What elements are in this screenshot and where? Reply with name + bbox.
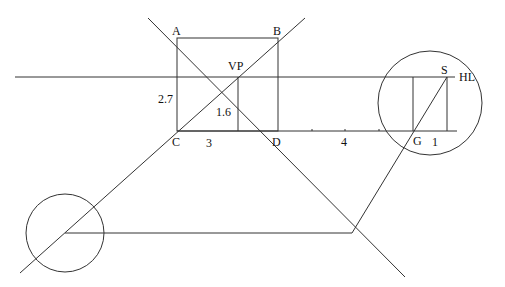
label-a: A — [172, 24, 181, 38]
diagonal-c-vp-b — [20, 18, 305, 273]
label-c: C — [172, 135, 180, 149]
perspective-diagram: A B C D VP S G HL 2.7 1.6 3 4 1 — [0, 0, 505, 287]
label-height-1-6: 1.6 — [216, 105, 231, 119]
label-height-2-7: 2.7 — [158, 92, 173, 106]
label-dist-4: 4 — [341, 135, 347, 149]
label-dist-1: 1 — [432, 135, 438, 149]
right-circle — [378, 51, 482, 155]
label-s: S — [441, 63, 448, 77]
label-dist-3: 3 — [206, 136, 212, 150]
label-hl: HL — [459, 70, 475, 84]
label-b: B — [273, 24, 281, 38]
label-d: D — [272, 135, 281, 149]
label-g: G — [413, 134, 422, 148]
label-vp: VP — [228, 59, 244, 73]
